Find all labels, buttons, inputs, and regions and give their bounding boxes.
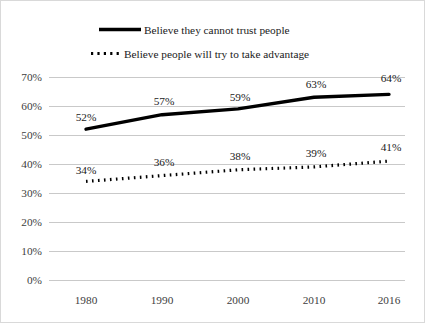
legend-item-trust[interactable]: Believe they cannot trust people: [99, 24, 290, 36]
x-axis-tick-labels: 1980 1990 2000 2010 2016: [75, 294, 401, 306]
data-label-trust-2000: 59%: [230, 91, 251, 103]
y-axis-tick-labels: 70% 60% 50% 40% 30% 20% 10% 0%: [21, 71, 42, 286]
data-label-trust-2010: 63%: [306, 78, 327, 90]
data-label-advantage-2000: 38%: [230, 150, 251, 162]
y-tick-20: 20%: [21, 216, 42, 228]
x-tick-1990: 1990: [151, 294, 174, 306]
data-label-advantage-2010: 39%: [306, 147, 327, 159]
data-label-trust-1990: 57%: [154, 95, 175, 107]
legend-label-advantage: Believe people will try to take advantag…: [124, 48, 309, 60]
y-tick-40: 40%: [21, 158, 42, 170]
y-tick-60: 60%: [21, 100, 42, 112]
chart-container: Believe they cannot trust people Believe…: [0, 0, 425, 323]
legend-label-trust: Believe they cannot trust people: [144, 24, 290, 36]
gridlines: [49, 77, 405, 280]
data-label-trust-2016: 64%: [381, 72, 402, 84]
y-tick-50: 50%: [21, 129, 42, 141]
x-tick-1980: 1980: [75, 294, 98, 306]
data-labels-advantage: 34% 36% 38% 39% 41%: [76, 141, 402, 176]
data-label-advantage-1980: 34%: [76, 164, 97, 176]
data-labels-trust: 52% 57% 59% 63% 64%: [76, 72, 402, 123]
data-label-advantage-1990: 36%: [154, 156, 175, 168]
y-tick-0: 0%: [27, 274, 43, 286]
x-tick-2000: 2000: [227, 294, 250, 306]
data-label-advantage-2016: 41%: [381, 141, 402, 153]
legend-item-advantage[interactable]: Believe people will try to take advantag…: [91, 48, 309, 60]
data-label-trust-1980: 52%: [76, 111, 97, 123]
legend: Believe they cannot trust people Believe…: [91, 24, 309, 60]
line-chart: Believe they cannot trust people Believe…: [1, 1, 425, 323]
y-tick-30: 30%: [21, 187, 42, 199]
x-tick-2016: 2016: [378, 294, 401, 306]
x-tick-2010: 2010: [303, 294, 326, 306]
y-tick-70: 70%: [21, 71, 42, 83]
y-tick-10: 10%: [21, 245, 42, 257]
